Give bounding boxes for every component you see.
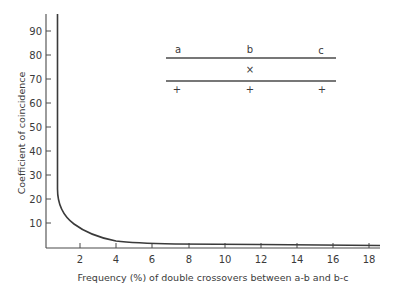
x-axis-label: Frequency (%) of double crossovers betwe…: [78, 272, 349, 283]
crossover-mark: ×: [246, 64, 254, 75]
y-axis-label: Coefficient of coincidence: [16, 72, 27, 195]
y-tick-label: 70: [29, 74, 42, 85]
x-tick-label: 10: [219, 254, 232, 265]
x-tick-label: 4: [113, 254, 119, 265]
x-tick-label: 14: [291, 254, 304, 265]
x-tick-labels: 2 4 6 8 10 12 14 16 18: [77, 254, 376, 265]
y-tick-label: 20: [29, 194, 42, 205]
locus-label-b: b: [247, 44, 253, 55]
x-tick-label: 12: [255, 254, 268, 265]
y-tick-labels: 10 20 30 40 50 60 70 80 90: [29, 26, 42, 229]
inset-diagram: a b c × + + +: [166, 44, 336, 95]
data-curve: [58, 14, 381, 246]
y-ticks: [46, 31, 51, 223]
plus-mark-c: +: [318, 84, 326, 95]
y-tick-label: 50: [29, 122, 42, 133]
y-tick-label: 30: [29, 170, 42, 181]
locus-label-c: c: [318, 45, 324, 56]
y-tick-label: 80: [29, 50, 42, 61]
y-tick-label: 90: [29, 26, 42, 37]
locus-label-a: a: [175, 44, 181, 55]
x-tick-label: 18: [363, 254, 376, 265]
plus-mark-b: +: [246, 84, 254, 95]
x-tick-label: 16: [327, 254, 340, 265]
x-tick-label: 2: [77, 254, 83, 265]
y-tick-label: 60: [29, 98, 42, 109]
x-tick-label: 6: [149, 254, 155, 265]
x-tick-label: 8: [186, 254, 192, 265]
y-tick-label: 10: [29, 218, 42, 229]
axes: [46, 14, 380, 248]
chart: 10 20 30 40 50 60 70 80 90 2 4 6 8 10 12…: [0, 0, 395, 290]
plus-mark-a: +: [173, 84, 181, 95]
y-tick-label: 40: [29, 146, 42, 157]
